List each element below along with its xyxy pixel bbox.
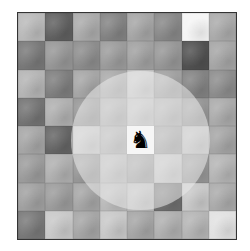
board-square[interactable] [209, 98, 236, 126]
board-square[interactable] [154, 13, 181, 41]
board-square[interactable] [100, 126, 127, 154]
board-square[interactable] [45, 154, 72, 182]
board-square[interactable] [127, 70, 154, 98]
board-square[interactable] [45, 211, 72, 239]
board-square[interactable] [73, 154, 100, 182]
board-square[interactable] [100, 41, 127, 69]
board-square[interactable] [18, 13, 45, 41]
board-square[interactable] [209, 126, 236, 154]
board-square[interactable] [45, 41, 72, 69]
board-square[interactable] [127, 98, 154, 126]
board-square[interactable] [45, 183, 72, 211]
board-square[interactable] [100, 211, 127, 239]
board-square[interactable] [209, 70, 236, 98]
board-square[interactable] [154, 70, 181, 98]
board-square[interactable] [18, 211, 45, 239]
board-square[interactable] [127, 183, 154, 211]
board-square[interactable] [18, 41, 45, 69]
board-square[interactable] [73, 13, 100, 41]
board-square[interactable] [45, 98, 72, 126]
board-square[interactable] [182, 183, 209, 211]
board-square[interactable] [73, 211, 100, 239]
black-knight-piece[interactable]: ♞ [127, 126, 154, 154]
board-square[interactable] [182, 98, 209, 126]
board-square[interactable] [182, 70, 209, 98]
board-square[interactable] [100, 13, 127, 41]
board-square[interactable] [73, 183, 100, 211]
board-square[interactable] [45, 70, 72, 98]
chess-board: ♞ [17, 12, 237, 240]
board-square[interactable] [18, 183, 45, 211]
board-square[interactable] [209, 183, 236, 211]
board-square[interactable] [209, 154, 236, 182]
board-square[interactable] [154, 41, 181, 69]
board-square[interactable] [73, 126, 100, 154]
board-square[interactable] [209, 211, 236, 239]
board-square[interactable] [154, 126, 181, 154]
board-square[interactable] [182, 126, 209, 154]
board-square[interactable] [209, 41, 236, 69]
board-square[interactable] [18, 70, 45, 98]
board-square[interactable] [73, 98, 100, 126]
board-square[interactable] [182, 13, 209, 41]
board-square[interactable] [100, 154, 127, 182]
board-square[interactable] [18, 98, 45, 126]
board-square[interactable] [154, 154, 181, 182]
board-square[interactable] [127, 13, 154, 41]
board-square[interactable] [45, 13, 72, 41]
board-square[interactable] [100, 70, 127, 98]
board-square[interactable] [182, 41, 209, 69]
board-square[interactable] [154, 98, 181, 126]
board-square[interactable] [45, 126, 72, 154]
board-square[interactable] [154, 211, 181, 239]
board-square[interactable] [209, 13, 236, 41]
board-square[interactable] [73, 41, 100, 69]
board-square[interactable] [127, 41, 154, 69]
board-square[interactable] [100, 98, 127, 126]
board-square[interactable] [18, 154, 45, 182]
board-square[interactable] [100, 183, 127, 211]
board-square[interactable] [127, 154, 154, 182]
board-square[interactable] [182, 154, 209, 182]
board-square[interactable] [18, 126, 45, 154]
board-square[interactable] [182, 211, 209, 239]
board-square[interactable] [127, 211, 154, 239]
board-square[interactable] [73, 70, 100, 98]
board-square[interactable] [154, 183, 181, 211]
